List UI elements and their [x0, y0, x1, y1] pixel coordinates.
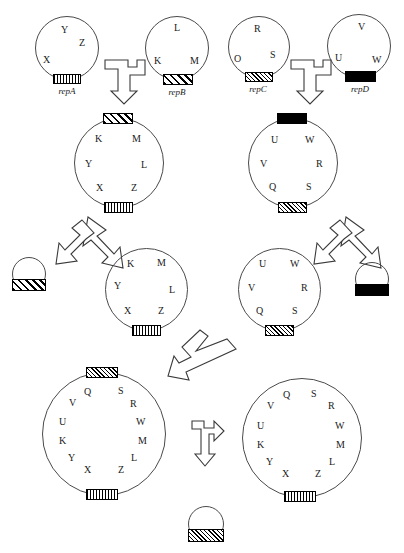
excised-repB-circle: [12, 257, 48, 295]
gene-label: K: [95, 134, 102, 144]
final-resolved-plasmid: Q S V R U W K M Y L X Z: [242, 378, 362, 498]
plasmid-repB: L K M repB: [145, 16, 209, 80]
gene-label: K: [127, 259, 134, 269]
gene-label: S: [292, 306, 298, 316]
gene-label: Y: [114, 281, 121, 291]
gene-label: X: [84, 465, 91, 475]
rep-block-repD: [345, 71, 376, 82]
gene-label: Z: [79, 38, 85, 48]
rep-block-repB: [103, 113, 133, 124]
plasmid-ring: [42, 372, 166, 496]
gene-label: Z: [131, 183, 137, 193]
gene-label: M: [157, 258, 166, 268]
gene-label: L: [329, 457, 335, 467]
gene-label: V: [358, 22, 365, 32]
gene-label: O: [234, 54, 241, 64]
gene-label: Y: [68, 453, 75, 463]
gene-label: R: [130, 399, 137, 409]
gene-label: X: [124, 306, 131, 316]
gene-label: W: [290, 259, 299, 269]
gene-label: W: [136, 417, 145, 427]
resolved-plasmid-C: U W V R Q S: [238, 248, 321, 331]
gene-label: U: [335, 53, 342, 63]
gene-label: R: [328, 401, 335, 411]
rep-label-repC: repC: [234, 84, 282, 94]
gene-label: L: [174, 23, 180, 33]
gene-label: M: [132, 134, 141, 144]
rep-block-repD: [355, 284, 389, 296]
gene-label: V: [260, 159, 267, 169]
diagram-canvas: Y Z X repA L K M repB R O S repC V: [0, 0, 404, 553]
resolved-plasmid-A: K M Y L X Z: [105, 248, 188, 331]
gene-label: V: [248, 283, 255, 293]
second-fusion-arrow: [164, 328, 244, 384]
gene-label: U: [257, 421, 264, 431]
gene-label: X: [282, 469, 289, 479]
gene-label: V: [69, 398, 76, 408]
rep-block-repB: [12, 279, 46, 291]
rep-block-repC: [188, 529, 224, 542]
gene-label: L: [169, 285, 175, 295]
rep-label-repB: repB: [153, 87, 201, 97]
rep-block-repC: [265, 325, 294, 336]
plasmid-repA: Y Z X repA: [35, 16, 99, 80]
gene-label: Q: [283, 390, 290, 400]
gene-label: Z: [158, 306, 164, 316]
gene-label: Y: [85, 159, 92, 169]
gene-label: Y: [266, 457, 273, 467]
plasmid-ring: [242, 378, 362, 498]
cointegrate-AB: K M Y L X Z: [74, 118, 164, 208]
gene-label: X: [96, 183, 103, 193]
gene-label: W: [305, 135, 314, 145]
excised-repD-circle: [355, 262, 393, 300]
rep-block-repC: [278, 202, 307, 213]
gene-label: K: [59, 436, 66, 446]
gene-label: L: [141, 160, 147, 170]
rep-label-repD: repD: [335, 84, 385, 94]
gene-label: Q: [84, 387, 91, 397]
gene-label: R: [301, 283, 308, 293]
gene-label: M: [336, 440, 345, 450]
rep-block-repA: [104, 202, 133, 213]
cointegrate-CD: U W V R Q S: [248, 118, 338, 208]
gene-label: M: [138, 436, 147, 446]
final-resolution-arrow: [190, 418, 226, 468]
gene-label: Y: [61, 25, 68, 35]
gene-label: Q: [269, 182, 276, 192]
plasmid-repD: V U W repD: [327, 14, 391, 78]
gene-label: Z: [118, 465, 124, 475]
gene-label: S: [270, 50, 276, 60]
gene-label: W: [335, 421, 344, 431]
rep-block-repB: [163, 74, 193, 85]
plasmid-repC: R O S repC: [228, 16, 290, 78]
excised-repC-circle: [188, 506, 228, 546]
rep-block-repC: [86, 367, 118, 378]
gene-label: X: [43, 55, 50, 65]
gene-label: W: [372, 55, 381, 65]
rep-label-repA: repA: [43, 86, 91, 96]
gene-label: Z: [315, 469, 321, 479]
gene-label: R: [254, 24, 261, 34]
gene-label: S: [118, 386, 124, 396]
large-cointegrate: Q S V R U W K M Y L X Z: [42, 372, 166, 496]
rep-block-repA: [53, 74, 81, 84]
rep-block-repA: [284, 491, 316, 502]
gene-label: S: [306, 182, 312, 192]
fusion-arrow-right: [290, 58, 332, 105]
gene-label: M: [190, 56, 199, 66]
gene-label: K: [154, 56, 161, 66]
gene-label: L: [131, 453, 137, 463]
fusion-arrow-left: [104, 58, 146, 105]
gene-label: U: [259, 259, 266, 269]
rep-block-repD: [277, 113, 307, 124]
rep-block-repA: [132, 325, 161, 336]
gene-label: U: [271, 135, 278, 145]
rep-block-repC: [245, 72, 273, 82]
gene-label: R: [316, 159, 323, 169]
gene-label: U: [59, 417, 66, 427]
rep-block-repA: [86, 489, 118, 500]
gene-label: Q: [256, 306, 263, 316]
gene-label: V: [267, 401, 274, 411]
gene-label: S: [311, 389, 317, 399]
gene-label: K: [257, 440, 264, 450]
